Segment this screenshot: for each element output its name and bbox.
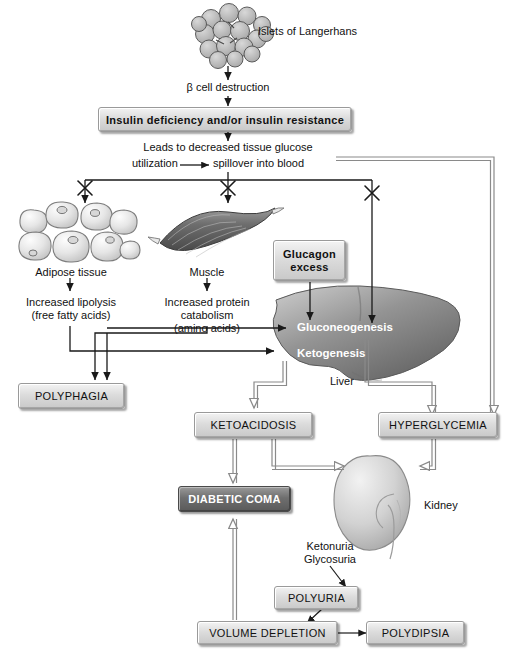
- glycosuria-label: Glycosuria: [304, 553, 356, 566]
- polyuria-box[interactable]: POLYURIA: [274, 586, 359, 610]
- diagram-graphics-layer: [0, 0, 510, 654]
- glucagon-excess-line1: Glucagon: [283, 248, 336, 261]
- beta-cell-destruction-label: β cell destruction: [187, 81, 270, 94]
- increased-lipolysis-line2: (free fatty acids): [32, 309, 111, 322]
- polydipsia-box[interactable]: POLYDIPSIA: [366, 621, 465, 645]
- protein-catabolism-line3: (amino acids): [174, 322, 240, 335]
- diagram-canvas: Islets of Langerhans β cell destruction …: [0, 0, 510, 654]
- ketogenesis-label: Ketogenesis: [297, 347, 365, 360]
- ketonuria-label: Ketonuria: [306, 540, 353, 553]
- volume-depletion-box[interactable]: VOLUME DEPLETION: [197, 621, 338, 645]
- islets-label: Islets of Langerhans: [258, 25, 357, 38]
- hyperglycemia-box[interactable]: HYPERGLYCEMIA: [378, 412, 498, 438]
- leads-to-line1: Leads to decreased tissue glucose: [143, 141, 312, 154]
- polyphagia-box[interactable]: POLYPHAGIA: [18, 383, 125, 409]
- kidney-label: Kidney: [424, 499, 458, 512]
- diabetic-coma-box[interactable]: DIABETIC COMA: [178, 486, 291, 512]
- insulin-deficiency-box[interactable]: Insulin deficiency and/or insulin resist…: [98, 107, 352, 132]
- muscle-label: Muscle: [190, 266, 225, 279]
- adipose-tissue-illustration: [19, 202, 140, 262]
- increased-lipolysis-line1: Increased lipolysis: [26, 296, 116, 309]
- liver-label: Liver: [330, 375, 354, 388]
- leads-to-spillover: spillover into blood: [213, 157, 304, 170]
- protein-catabolism-line2: catabolism: [181, 309, 234, 322]
- protein-catabolism-line1: Increased protein: [165, 296, 250, 309]
- gray-flow-arrows: [233, 157, 494, 620]
- adipose-tissue-label: Adipose tissue: [35, 266, 107, 279]
- muscle-illustration: [148, 208, 284, 257]
- leads-to-utilization: utilization: [132, 157, 178, 170]
- glucagon-excess-line2: excess: [290, 261, 329, 274]
- gluconeogenesis-label: Gluconeogenesis: [297, 321, 393, 334]
- ketoacidosis-box[interactable]: KETOACIDOSIS: [194, 412, 313, 438]
- glucagon-excess-box[interactable]: Glucagon excess: [273, 240, 346, 281]
